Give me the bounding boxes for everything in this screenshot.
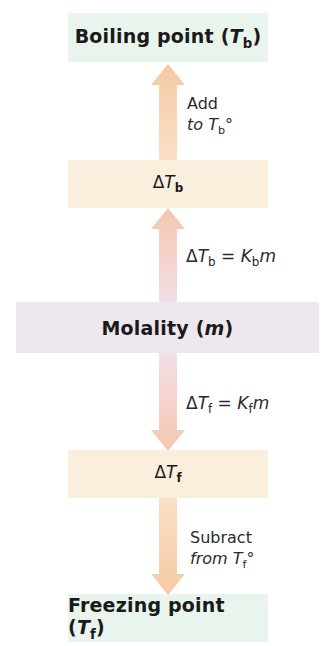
- delta-tb-box: ΔTb: [68, 160, 268, 208]
- boiling-point-label: Boiling point (Tb): [75, 25, 262, 51]
- add-line1: Add: [187, 93, 233, 114]
- subtract-line1: Subract: [190, 527, 254, 548]
- freezing-point-box: Freezing point (Tf): [68, 594, 268, 642]
- delta-tb-label: ΔTb: [153, 172, 184, 195]
- equation-freezing: ΔTf = Kfm: [186, 393, 269, 420]
- subtract-annotation: Subract from Tf°: [190, 527, 254, 575]
- add-line2: to Tb°: [187, 114, 233, 141]
- delta-tf-box: ΔTf: [68, 450, 268, 498]
- subtract-line2: from Tf°: [190, 548, 254, 575]
- molality-label: Molality (m): [102, 317, 234, 339]
- arrow-down-subtract: [150, 497, 186, 596]
- freezing-point-label: Freezing point (Tf): [68, 594, 268, 642]
- equation-boiling: ΔTb = Kbm: [186, 246, 276, 273]
- add-annotation: Add to Tb°: [187, 93, 233, 141]
- delta-tf-label: ΔTf: [154, 462, 181, 485]
- boiling-point-box: Boiling point (Tb): [68, 13, 268, 62]
- arrow-up-add: [150, 64, 186, 162]
- molality-box: Molality (m): [16, 302, 319, 353]
- arrow-down-eq-f: [150, 352, 186, 452]
- arrow-up-eq-b: [150, 208, 186, 304]
